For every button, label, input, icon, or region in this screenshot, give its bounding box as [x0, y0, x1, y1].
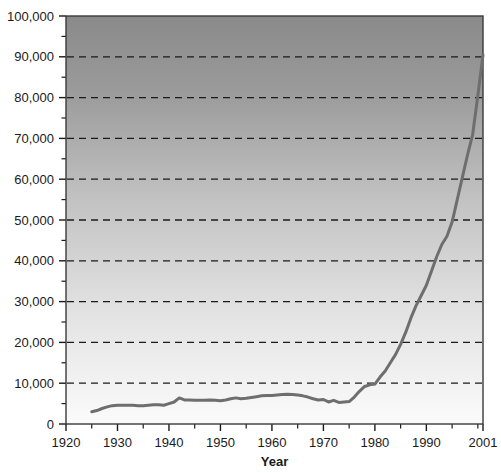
y-axis-tick-label: 50,000: [14, 213, 54, 228]
line-chart: 010,00020,00030,00040,00050,00060,00070,…: [0, 0, 501, 473]
y-axis-tick-label: 10,000: [14, 376, 54, 391]
x-axis-tick-label: 1990: [412, 435, 441, 450]
x-axis-tick-label: 1970: [309, 435, 338, 450]
x-axis-tick-label: 1960: [257, 435, 286, 450]
y-axis-tick-label: 60,000: [14, 172, 54, 187]
y-axis-tick-label: 30,000: [14, 294, 54, 309]
x-axis-tick-label: 1920: [52, 435, 81, 450]
y-axis-tick-label: 40,000: [14, 253, 54, 268]
y-axis-tick-labels: 010,00020,00030,00040,00050,00060,00070,…: [7, 9, 54, 432]
x-axis-tick-label: 1980: [360, 435, 389, 450]
x-axis-tick-label: 1940: [155, 435, 184, 450]
y-axis-tick-label: 100,000: [7, 9, 54, 24]
y-axis-tick-label: 70,000: [14, 131, 54, 146]
y-axis-tick-label: 90,000: [14, 49, 54, 64]
y-axis-tick-label: 0: [47, 417, 54, 432]
x-axis-title: Year: [261, 454, 288, 469]
x-axis-tick-labels: 192019301940195019601970198019902001: [52, 435, 498, 450]
y-axis-tick-label: 20,000: [14, 335, 54, 350]
x-axis-major-ticks: [66, 424, 483, 431]
y-axis-tick-label: 80,000: [14, 90, 54, 105]
chart-container: 010,00020,00030,00040,00050,00060,00070,…: [0, 0, 501, 473]
x-axis-tick-label: 1950: [206, 435, 235, 450]
x-axis-tick-label: 2001: [469, 435, 498, 450]
x-axis-tick-label: 1930: [103, 435, 132, 450]
